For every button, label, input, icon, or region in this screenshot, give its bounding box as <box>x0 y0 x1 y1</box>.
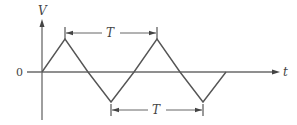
arrow-left-icon <box>66 31 73 35</box>
period-label-bottom: T <box>152 103 161 117</box>
v-axis-label: V <box>38 4 48 18</box>
triangle-waveform <box>42 39 226 102</box>
period-label-top: T <box>106 26 115 40</box>
arrow-left-icon <box>112 108 119 112</box>
t-axis <box>27 70 280 75</box>
t-axis-label: t <box>283 65 288 79</box>
t-axis-arrow-icon <box>272 70 280 75</box>
arrow-right-icon <box>195 108 202 112</box>
triangle-wave-diagram: V t 0 T T <box>0 0 297 125</box>
origin-label: 0 <box>16 66 23 79</box>
arrow-right-icon <box>149 31 156 35</box>
v-axis-arrow-icon <box>40 19 45 27</box>
